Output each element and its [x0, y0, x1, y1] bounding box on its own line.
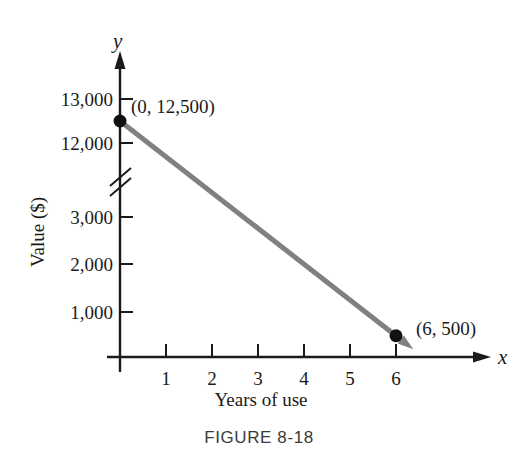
data-series-value: (0, 12,500) (6, 500): [114, 96, 477, 349]
x-tick-label-2: 2: [207, 368, 217, 389]
figure-caption: FIGURE 8-18: [204, 428, 314, 447]
y-axis-title: Value ($): [27, 197, 49, 267]
figure-container: y 13,000 12,000 3,000 2,000 1,000 Value …: [0, 0, 518, 463]
x-axis-variable-label: x: [497, 345, 508, 369]
x-tick-label-3: 3: [253, 368, 263, 389]
y-tick-label-1000: 1,000: [70, 302, 113, 323]
y-axis-arrowhead: [115, 51, 126, 69]
x-tick-label-5: 5: [345, 368, 355, 389]
chart-canvas: y 13,000 12,000 3,000 2,000 1,000 Value …: [0, 0, 518, 463]
y-tick-label-2000: 2,000: [70, 254, 113, 275]
x-tick-label-1: 1: [161, 368, 171, 389]
data-point-0-12500: [114, 115, 127, 128]
x-axis-group: x 1 2 3 4 5 6 Years of use: [107, 344, 508, 410]
y-tick-label-13000: 13,000: [61, 89, 113, 110]
x-tick-label-4: 4: [299, 368, 309, 389]
x-axis-title: Years of use: [214, 389, 307, 410]
data-point-6-500: [390, 329, 403, 342]
value-depreciation-line: [120, 121, 402, 341]
data-point-label-6-500: (6, 500): [416, 318, 476, 340]
y-tick-label-12000: 12,000: [61, 133, 113, 154]
y-axis-variable-label: y: [111, 29, 123, 53]
y-tick-label-3000: 3,000: [70, 207, 113, 228]
data-point-label-0-12500: (0, 12,500): [131, 96, 215, 118]
x-tick-label-6: 6: [391, 368, 401, 389]
x-axis-arrowhead: [473, 352, 491, 363]
y-axis-group: y 13,000 12,000 3,000 2,000 1,000 Value …: [27, 29, 133, 372]
